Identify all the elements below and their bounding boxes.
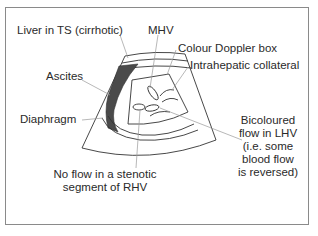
label-line: No flow in a stenotic [40, 168, 170, 181]
label-colour-doppler-box: Colour Doppler box [178, 42, 277, 55]
vessel-branch [150, 112, 170, 117]
label-liver: Liver in TS (cirrhotic) [17, 24, 123, 37]
leader-ascites [82, 80, 110, 95]
label-line: is reversed) [226, 166, 310, 179]
mhv-vessel [146, 85, 160, 102]
label-diaphragm: Diaphragm [20, 113, 76, 126]
diagram-canvas: Liver in TS (cirrhotic) MHV Colour Doppl… [0, 0, 318, 236]
rhv-vessel [133, 104, 145, 110]
intrahepatic-collateral [160, 90, 178, 102]
leader-collateral [172, 67, 188, 90]
near-field-arc-1 [122, 59, 188, 63]
label-line: Bicoloured [226, 114, 310, 127]
label-line: flow in LHV [226, 127, 310, 140]
label-line: blood flow [226, 153, 310, 166]
label-line: segment of RHV [40, 181, 170, 194]
leader-liver [120, 35, 128, 58]
leader-no-flow [136, 110, 140, 168]
lhv-vessel [145, 104, 160, 112]
label-line: (i.e. some [226, 140, 310, 153]
label-intrahepatic-collateral: Intrahepatic collateral [190, 59, 299, 72]
diaphragm-arc-inner [108, 116, 194, 135]
leader-mhv [150, 35, 158, 88]
label-no-flow-rhv: No flow in a stenotic segment of RHV [40, 168, 170, 194]
ascites-region [106, 64, 138, 132]
label-bicoloured-flow: Bicoloured flow in LHV (i.e. some blood … [226, 114, 310, 179]
label-mhv: MHV [148, 24, 174, 37]
leader-diaphragm [82, 118, 103, 120]
leader-doppler-box [167, 50, 176, 75]
label-ascites: Ascites [46, 70, 83, 83]
